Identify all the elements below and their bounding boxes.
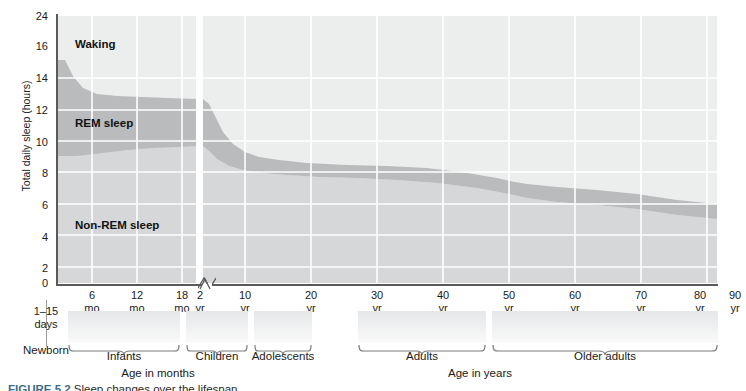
- y-tick-8: 8: [22, 168, 48, 178]
- x-tick-10-yr-value: 10: [239, 289, 251, 301]
- y-tick-12: 12: [22, 105, 48, 115]
- x-axis-caption-years: Age in years: [390, 367, 570, 379]
- x-tick-20-yr-value: 20: [305, 289, 317, 301]
- y-tick-10: 10: [22, 137, 48, 147]
- group-name-adolescents: Adolescents: [248, 350, 318, 366]
- sleep-area-chart: [57, 16, 717, 283]
- plot-area: Waking REM sleep Non-REM sleep: [57, 16, 717, 283]
- x-tick-30-yr-value: 30: [371, 289, 383, 301]
- y-tick-2: 2: [22, 263, 48, 273]
- x-tick-60-yr-value: 60: [569, 289, 581, 301]
- figure-caption-text: Sleep changes over the lifespan: [74, 383, 238, 391]
- newborn-range-line2: days: [34, 318, 57, 330]
- y-tick-6: 6: [22, 200, 48, 210]
- y-tick-16: 16: [22, 41, 48, 51]
- x-tick-90-yr: 90 yr: [715, 289, 746, 314]
- x-axis-caption-months: Age in months: [58, 367, 258, 379]
- x-tick-2-yr-value: 2: [197, 289, 203, 301]
- y-tick-14: 14: [22, 73, 48, 83]
- x-tick-90-yr-unit: yr: [715, 302, 746, 315]
- x-axis-break-icon: [198, 276, 216, 290]
- region-label-non-rem-sleep: Non-REM sleep: [75, 219, 159, 231]
- x-tick-6-mo-value: 6: [89, 289, 95, 301]
- x-tick-12-mo-value: 12: [131, 289, 143, 301]
- group-bar-infants: [68, 311, 180, 343]
- x-tick-40-yr-value: 40: [437, 289, 449, 301]
- group-name-adults: Adults: [358, 350, 486, 366]
- group-bar-children: [186, 311, 248, 343]
- y-tick-24: 24: [22, 11, 48, 21]
- non-rem-left: [57, 146, 197, 283]
- figure-caption-number: FIGURE 5.2: [8, 383, 71, 391]
- x-tick-70-yr-value: 70: [635, 289, 647, 301]
- y-tick-0: 0: [22, 278, 48, 288]
- group-name-older-adults: Older adults: [492, 350, 718, 366]
- y-tick-4: 4: [22, 232, 48, 242]
- y-axis-line: [56, 14, 58, 285]
- region-label-waking: Waking: [75, 38, 115, 50]
- group-name-infants: Infants: [68, 350, 180, 366]
- newborn-range-line1: 1–15: [34, 305, 58, 317]
- group-bar-adults: [358, 311, 486, 343]
- x-tick-90-yr-value: 90: [729, 289, 741, 301]
- group-bar-older-adults: [492, 311, 718, 343]
- region-label-rem-sleep: REM sleep: [75, 117, 133, 129]
- figure-caption: FIGURE 5.2 Sleep changes over the lifesp…: [8, 383, 238, 391]
- group-bar-adolescents: [254, 311, 312, 343]
- group-name-children: Children: [180, 350, 254, 366]
- axis-break-band: [196, 16, 203, 283]
- y-axis-title: Total daily sleep (hours): [20, 26, 32, 246]
- x-tick-50-yr-value: 50: [503, 289, 515, 301]
- x-tick-80-yr-value: 80: [694, 289, 706, 301]
- x-axis-line: [56, 284, 718, 286]
